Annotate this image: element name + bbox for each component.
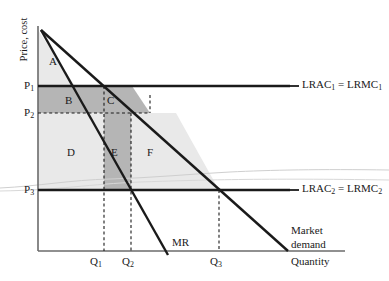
quantity-tick-q2: Q2 — [122, 256, 134, 267]
market-demand-label-line2: demand — [291, 239, 326, 250]
quantity-tick-q3: Q3 — [210, 256, 222, 267]
marginal-revenue-label: MR — [172, 237, 189, 248]
price-tick-p1: P1 — [24, 80, 34, 91]
region-label-C: C — [107, 95, 114, 106]
market-demand-label-line1: Market — [291, 225, 323, 236]
price-tick-p2: P2 — [24, 107, 34, 118]
quantity-tick-q1: Q1 — [90, 256, 102, 267]
region-label-F: F — [147, 147, 153, 158]
y-axis-label: Price, cost — [18, 9, 29, 71]
region-label-B: B — [65, 95, 72, 106]
region-label-E: E — [111, 147, 118, 158]
price-tick-p3: P3 — [24, 184, 34, 195]
region-label-A: A — [49, 56, 57, 67]
x-axis-label: Quantity — [291, 256, 330, 267]
economics-diagram — [0, 0, 389, 281]
region-label-D: D — [67, 147, 75, 158]
lrac1-lrmc1-label: LRAC1 = LRMC1 — [302, 79, 382, 90]
lrac2-lrmc2-label: LRAC2 = LRMC2 — [302, 183, 382, 194]
